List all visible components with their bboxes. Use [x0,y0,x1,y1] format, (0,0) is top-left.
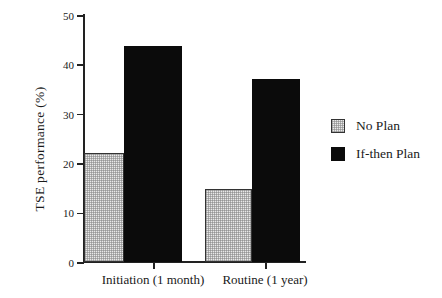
y-tick-label-20: 20 [63,158,74,170]
y-tick-30: 30 [77,114,84,116]
plot-area: 50 40 30 20 10 0 [84,15,305,262]
bar-if-then-plan-routine [252,79,300,262]
bar-no-plan-routine [205,189,252,262]
y-tick-label-40: 40 [63,59,74,71]
bar-chart-figure: TSE performance (%) 50 40 30 20 10 0 I [0,0,442,298]
light-hatched-swatch-icon [331,119,345,133]
y-tick-0: 0 [77,262,84,264]
x-tick-initiation [153,262,155,269]
y-tick-label-0: 0 [69,257,75,269]
y-axis-title: TSE performance (%) [20,0,60,298]
legend-item-if-then-plan: If-then Plan [331,140,441,168]
x-tick-routine [265,262,267,269]
x-axis-label-routine: Routine (1 year) [222,272,307,288]
legend-label-if-then-plan: If-then Plan [356,146,420,162]
bar-if-then-plan-initiation [124,46,182,262]
legend: No Plan If-then Plan [331,112,441,168]
y-tick-label-50: 50 [63,10,74,22]
legend-label-no-plan: No Plan [356,118,400,134]
y-tick-10: 10 [77,213,84,215]
black-swatch-icon [331,147,345,161]
x-axis-label-initiation: Initiation (1 month) [102,272,205,288]
y-tick-label-10: 10 [63,207,74,219]
y-tick-label-30: 30 [63,109,74,121]
bar-no-plan-initiation [84,153,124,262]
y-tick-20: 20 [77,163,84,165]
legend-item-no-plan: No Plan [331,112,441,140]
y-tick-50: 50 [77,15,84,17]
y-tick-40: 40 [77,64,84,66]
